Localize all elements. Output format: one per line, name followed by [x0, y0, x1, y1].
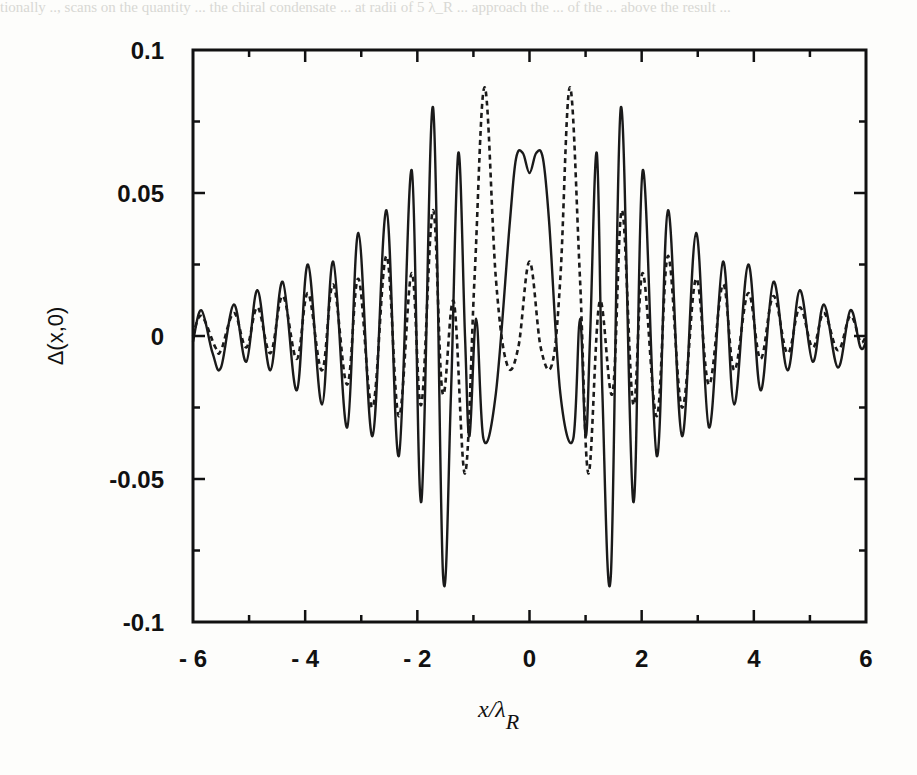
y-tick-label: 0.1	[131, 37, 164, 64]
x-tick-label: - 4	[291, 645, 320, 672]
x-tick-label: - 2	[403, 645, 431, 672]
x-tick-label: - 6	[179, 645, 207, 672]
y-tick-label: -0.05	[109, 466, 164, 493]
x-tick-label: 0	[523, 645, 536, 672]
y-tick-label: -0.1	[123, 609, 164, 636]
x-tick-labels: - 6- 4- 20246	[179, 645, 873, 672]
x-tick-label: 2	[635, 645, 648, 672]
axis-ticks	[193, 50, 866, 622]
x-axis-label: x/λR	[477, 696, 520, 734]
plot-frame	[193, 50, 866, 622]
y-tick-label: 0	[151, 323, 164, 350]
plot-curves	[193, 87, 866, 586]
x-tick-label: 6	[859, 645, 872, 672]
y-tick-label: 0.05	[117, 180, 164, 207]
x-axis-label-subscript: R	[505, 709, 520, 734]
series-dashed-line	[193, 87, 866, 473]
x-tick-label: 4	[747, 645, 761, 672]
y-tick-labels: 0.10.050-0.05-0.1	[109, 37, 164, 636]
chart: - 6- 4- 20246 0.10.050-0.05-0.1 x/λR Δ(x…	[0, 0, 917, 775]
y-axis-label: Δ(x,0)	[43, 307, 68, 366]
